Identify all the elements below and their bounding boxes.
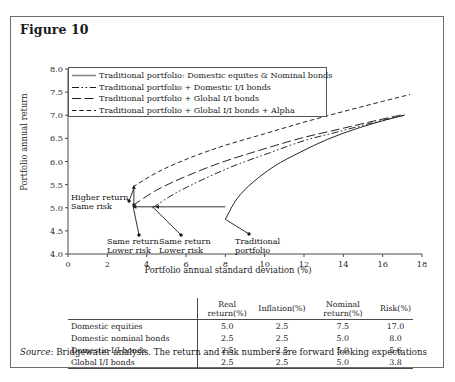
- table-body: Domestic equities5.02.57.517.0Domestic n…: [68, 320, 413, 369]
- annotation-leader-line: [133, 205, 139, 235]
- annotation-label: Traditionalportfolio: [235, 237, 280, 256]
- annotation-arrows: [127, 186, 250, 237]
- legend-line-swatch: [72, 71, 96, 80]
- x-tick-label: 14: [328, 259, 358, 269]
- x-tick-label: 8: [210, 259, 240, 269]
- y-tick-label: 4.5: [29, 226, 63, 236]
- legend-item-1: Traditional portfolio: Domestic equites …: [72, 70, 326, 82]
- legend-item-3: Traditional portfolio + Global I/I bonds: [72, 93, 326, 105]
- table-row: Domestic nominal bonds2.52.55.08.0: [68, 332, 413, 344]
- annotation-line-2: Lower risk: [107, 246, 159, 255]
- legend-line-swatch: [72, 83, 96, 92]
- legend-label: Traditional portfolio: Domestic equites …: [99, 71, 332, 80]
- annotation-label: Higher returnSame risk: [71, 193, 128, 212]
- source-label: Source: [20, 347, 51, 357]
- x-tick-label: 2: [92, 259, 122, 269]
- table-row-header: Domestic nominal bonds: [68, 332, 198, 344]
- x-tick-label: 12: [289, 259, 319, 269]
- legend-line-swatch: [72, 106, 96, 115]
- x-tick-label: 4: [132, 259, 162, 269]
- annotation-leader-line: [153, 207, 181, 235]
- cell-real-return: 2.5: [198, 332, 257, 344]
- cell-real-return: 2.5: [198, 356, 257, 369]
- chart-plot-area: Portfolio annual return Portfolio annual…: [11, 41, 445, 293]
- chart-legend: Traditional portfolio: Domestic equites …: [68, 67, 327, 117]
- series-line-1: [225, 115, 404, 219]
- legend-item-4: Traditional portfolio + Global I/I bonds…: [72, 105, 326, 117]
- x-tick-label: 16: [368, 259, 398, 269]
- table-header-row: Real return(%)Inflation(%)Nominal return…: [68, 298, 413, 320]
- cell-inflation: 2.5: [256, 332, 307, 344]
- cell-risk: 8.0: [378, 332, 413, 344]
- legend-label: Traditional portfolio + Global I/I bonds…: [99, 106, 295, 115]
- cell-nominal-return: 5.0: [308, 356, 378, 369]
- annotation-label: Same returnLower risk: [159, 237, 211, 256]
- source-text: : Bridgewater analysis. The return and r…: [51, 347, 427, 357]
- annotation-label: Same returnLower risk: [107, 237, 159, 256]
- table-row-header: Global I/I bonds: [68, 356, 198, 369]
- table-col-header: Nominal return(%): [308, 298, 378, 320]
- x-tick-label: 0: [53, 259, 83, 269]
- cell-risk: 3.8: [378, 356, 413, 369]
- assumptions-table: Real return(%)Inflation(%)Nominal return…: [68, 298, 413, 369]
- table-row: Domestic equities5.02.57.517.0: [68, 320, 413, 333]
- table-col-header: Risk(%): [378, 298, 413, 320]
- annotation-line-2: Same risk: [71, 202, 128, 211]
- y-tick-label: 8.0: [29, 64, 63, 74]
- cell-inflation: 2.5: [256, 356, 307, 369]
- series-line-3: [133, 114, 404, 205]
- x-tick-label: 6: [171, 259, 201, 269]
- cell-real-return: 5.0: [198, 320, 257, 333]
- y-tick-label: 4.0: [29, 249, 63, 259]
- x-tick-label: 18: [407, 259, 437, 269]
- source-note: Source: Bridgewater analysis. The return…: [20, 347, 427, 357]
- figure-panel: Figure 10 Portfolio annual return Portfo…: [10, 16, 444, 368]
- cell-risk: 17.0: [378, 320, 413, 333]
- annotation-leader-line: [129, 188, 134, 201]
- y-tick-label: 7.5: [29, 87, 63, 97]
- y-axis-title: Portfolio annual return: [19, 87, 29, 197]
- cell-nominal-return: 7.5: [308, 320, 378, 333]
- annotation-leader-line: [225, 219, 249, 234]
- figure-title: Figure 10: [20, 22, 89, 37]
- table-col-header: Inflation(%): [256, 298, 307, 320]
- cell-inflation: 2.5: [256, 320, 307, 333]
- table-head: Real return(%)Inflation(%)Nominal return…: [68, 298, 413, 320]
- table-row-header: Domestic equities: [68, 320, 198, 333]
- y-tick-label: 7.0: [29, 110, 63, 120]
- table-col-header: Real return(%): [198, 298, 257, 320]
- annotation-line-2: Lower risk: [159, 246, 211, 255]
- legend-line-swatch: [72, 94, 96, 103]
- table-corner-cell: [68, 298, 198, 320]
- legend-label: Traditional portfolio + Domestic I/I bon…: [99, 83, 271, 92]
- y-tick-label: 5.5: [29, 180, 63, 190]
- series-line-2: [153, 115, 405, 208]
- legend-item-2: Traditional portfolio + Domestic I/I bon…: [72, 82, 326, 94]
- y-tick-label: 5.0: [29, 203, 63, 213]
- y-tick-label: 6.0: [29, 157, 63, 167]
- table-row: Global I/I bonds2.52.55.03.8: [68, 356, 413, 369]
- legend-label: Traditional portfolio + Global I/I bonds: [99, 94, 259, 103]
- y-tick-label: 6.5: [29, 133, 63, 143]
- arrow-head: [132, 186, 136, 189]
- x-tick-label: 10: [250, 259, 280, 269]
- cell-nominal-return: 5.0: [308, 332, 378, 344]
- annotation-line-2: portfolio: [235, 246, 280, 255]
